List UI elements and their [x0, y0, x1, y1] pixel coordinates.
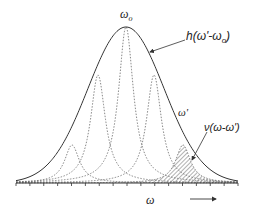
axis-variable-label: ω	[146, 194, 154, 206]
lorentzian-components	[16, 27, 238, 183]
envelope-function-label: h(ω'-ωo)	[186, 30, 230, 45]
component-frequency-label: ω'	[178, 107, 188, 118]
center-frequency-label: ωo	[120, 8, 132, 23]
envelope-label-pointer	[150, 40, 185, 52]
x-axis	[16, 183, 238, 186]
component-label-pointer	[192, 132, 207, 160]
gaussian-envelope-curve	[16, 27, 238, 181]
component-function-label: ν(ω-ω')	[204, 122, 240, 133]
